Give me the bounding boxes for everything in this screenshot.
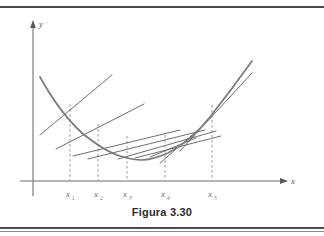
tick-label-4: x 4 [160,189,170,201]
x-axis [20,178,288,184]
svg-text:x: x [207,189,212,199]
x-tick-labels: x 1 x 2 x 3 x 4 x 5 [65,189,217,201]
tick-label-2: x 2 [93,189,103,201]
svg-text:x: x [122,189,127,199]
bottom-rule-secondary [0,231,324,232]
top-rule [0,6,324,8]
tangent-line-9 [180,73,252,151]
tick-label-3: x 3 [122,189,132,201]
svg-text:x: x [160,189,165,199]
svg-text:1: 1 [72,195,75,201]
svg-text:2: 2 [100,195,103,201]
x-axis-label: x [290,176,295,186]
svg-text:5: 5 [214,195,217,201]
y-axis-label: y [38,19,43,29]
svg-text:x: x [65,189,70,199]
drop-lines [70,104,212,181]
parabola-tangents-svg: y x [0,9,324,203]
tick-label-1: x 1 [65,189,75,201]
tangent-line-5 [118,131,216,159]
svg-text:3: 3 [128,195,132,201]
bottom-rule [0,227,324,229]
parabola-curve [40,61,252,160]
figure-caption: Figura 3.30 [0,206,324,218]
y-axis [30,20,36,196]
svg-text:x: x [93,189,98,199]
svg-text:4: 4 [167,195,170,201]
figure-graphic: y x [0,9,324,203]
tangent-lines [40,73,252,163]
figure-page: y x [0,0,324,236]
tick-label-5: x 5 [207,189,217,201]
